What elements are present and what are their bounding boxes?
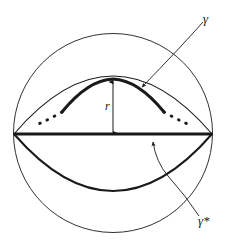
gamma-star-label: γ*	[198, 214, 210, 227]
sphere-diagram-svg	[0, 0, 228, 252]
lower-lens-arc	[14, 134, 212, 191]
gamma-dotted-left	[34, 112, 62, 126]
gamma-leader-arrow	[142, 22, 203, 87]
figure-container: γ γ* r	[0, 0, 228, 252]
gamma-dotted-right	[164, 112, 192, 126]
radius-label: r	[105, 100, 110, 112]
gamma-label: γ	[203, 12, 208, 25]
